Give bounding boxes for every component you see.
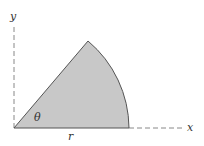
x-axis-label: x	[187, 121, 194, 134]
sector-diagram: y x θ r	[0, 0, 204, 146]
angle-label: θ	[34, 111, 41, 124]
y-axis-label: y	[9, 10, 17, 23]
radius-label: r	[68, 130, 74, 143]
circular-sector	[14, 41, 129, 128]
